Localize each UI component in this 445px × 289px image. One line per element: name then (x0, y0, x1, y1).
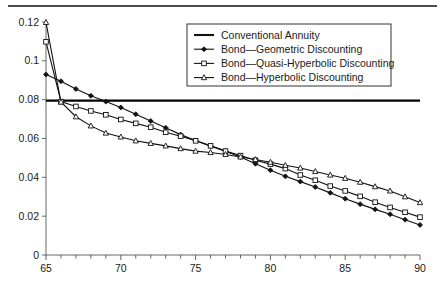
legend-label: Bond—Geometric Discounting (221, 43, 362, 55)
data-point-open-square (193, 139, 198, 144)
data-point-filled-diamond (148, 119, 153, 124)
data-point-open-square (163, 130, 168, 135)
legend-item-2[interactable]: Bond—Quasi-Hyperbolic Discounting (194, 57, 394, 69)
x-tick-label: 70 (115, 262, 127, 274)
y-tick-label: 0.02 (19, 210, 40, 222)
data-point-open-square (313, 178, 318, 183)
legend-marker-open-square (202, 61, 207, 66)
series-bond-geometric-discounting (44, 72, 423, 227)
data-point-filled-diamond (373, 207, 378, 212)
x-tick-label: 65 (40, 262, 52, 274)
x-axis-ticks: 657075808590 (40, 255, 426, 274)
data-point-open-square (403, 210, 408, 215)
legend-label: Bond—Quasi-Hyperbolic Discounting (221, 57, 394, 69)
data-point-open-square (133, 121, 138, 126)
line-chart: 00.020.040.060.080.10.12 657075808590 Co… (0, 0, 445, 289)
y-tick-label: 0.12 (19, 16, 40, 28)
data-point-open-square (178, 134, 183, 139)
data-point-filled-diamond (283, 174, 288, 179)
data-point-filled-diamond (343, 196, 348, 201)
data-point-filled-diamond (358, 202, 363, 207)
data-point-filled-diamond (298, 179, 303, 184)
data-point-filled-diamond (118, 105, 123, 110)
data-point-open-square (328, 184, 333, 189)
data-point-filled-diamond (58, 79, 63, 84)
data-point-filled-diamond (388, 212, 393, 217)
data-point-open-square (298, 173, 303, 178)
series-path (46, 74, 420, 224)
chart-legend: Conventional AnnuityBond—Geometric Disco… (187, 24, 394, 86)
y-axis-ticks: 00.020.040.060.080.10.12 (19, 16, 46, 261)
data-point-filled-diamond (133, 112, 138, 117)
x-tick-label: 80 (265, 262, 277, 274)
data-point-filled-diamond (73, 86, 78, 91)
data-point-open-square (74, 104, 79, 109)
data-point-filled-diamond (88, 93, 93, 98)
y-tick-label: 0.04 (19, 171, 40, 183)
data-point-open-square (343, 189, 348, 194)
x-tick-label: 85 (339, 262, 351, 274)
data-point-open-square (208, 144, 213, 149)
data-point-filled-diamond (268, 168, 273, 173)
data-point-open-square (388, 205, 393, 210)
chart-figure: 00.020.040.060.080.10.12 657075808590 Co… (0, 0, 445, 289)
data-point-open-square (89, 109, 94, 114)
y-tick-label: 0 (33, 249, 39, 261)
data-point-filled-diamond (403, 217, 408, 222)
data-point-filled-diamond (44, 72, 49, 77)
legend-label: Bond—Hyperbolic Discounting (221, 71, 364, 83)
x-tick-label: 90 (414, 262, 426, 274)
data-point-open-triangle (88, 123, 93, 128)
data-point-filled-diamond (313, 185, 318, 190)
data-point-open-square (418, 215, 423, 220)
data-point-open-square (148, 125, 153, 130)
data-point-open-square (358, 194, 363, 199)
data-point-open-square (104, 113, 109, 118)
legend-label: Conventional Annuity (221, 29, 320, 41)
y-tick-label: 0.1 (24, 54, 39, 66)
data-point-open-square (119, 117, 124, 122)
y-tick-label: 0.08 (19, 93, 40, 105)
x-tick-label: 75 (190, 262, 202, 274)
y-tick-label: 0.06 (19, 132, 40, 144)
data-point-open-square (44, 40, 49, 45)
data-point-open-square (373, 200, 378, 205)
data-point-filled-diamond (328, 190, 333, 195)
data-point-filled-diamond (418, 222, 423, 227)
